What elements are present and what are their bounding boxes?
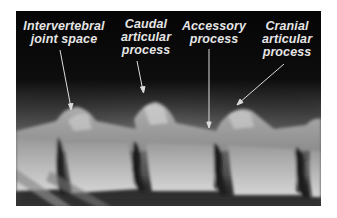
label-caudal-articular-process: Caudal articular process [112, 18, 180, 57]
label-cranial-articular-process: Cranial articular process [252, 20, 321, 59]
label-accessory-process: Accessory process [176, 20, 252, 46]
label-intervertebral-joint-space: Intervertebral joint space [18, 20, 110, 46]
radiograph-figure: Intervertebral joint space Caudal articu… [16, 11, 321, 206]
